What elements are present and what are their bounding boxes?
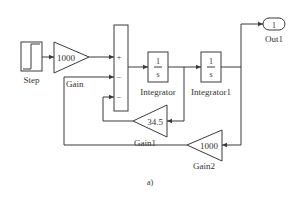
figure-caption: a) <box>147 178 154 187</box>
gain2-label: Gain2 <box>193 161 215 171</box>
integrator-label: Integrator <box>140 87 175 97</box>
signal-line <box>241 24 263 67</box>
gain-value: 1000 <box>57 53 76 63</box>
step-label: Step <box>23 75 40 85</box>
gain2-block[interactable]: 1000 Gain2 <box>187 130 222 171</box>
integrator1-denominator: s <box>209 70 212 79</box>
gain-block[interactable]: 1000 Gain <box>54 42 89 89</box>
block-diagram: Step 1000 Gain + − − 1 s Integrator 1 s … <box>0 0 303 204</box>
out1-port[interactable]: 1 Out1 <box>263 18 285 44</box>
gain-label: Gain <box>66 79 84 89</box>
gain1-block[interactable]: 34.5 Gain1 <box>133 105 167 148</box>
out1-port-number: 1 <box>272 21 276 30</box>
sum-sign-minus: − <box>117 93 122 102</box>
integrator-denominator: s <box>156 70 159 79</box>
sum-sign-minus: − <box>117 73 122 82</box>
sum-block[interactable]: + − − <box>114 25 128 111</box>
gain1-value: 34.5 <box>147 117 163 127</box>
integrator-block[interactable]: 1 s Integrator <box>140 52 175 97</box>
feedback-line <box>222 67 241 145</box>
sum-sign-plus: + <box>117 53 122 62</box>
integrator1-block[interactable]: 1 s Integrator1 <box>191 52 231 97</box>
integrator-numerator: 1 <box>156 57 160 66</box>
gain2-value: 1000 <box>200 141 219 151</box>
gain1-label: Gain1 <box>134 138 156 148</box>
integrator1-label: Integrator1 <box>191 87 231 97</box>
out1-label: Out1 <box>265 34 283 44</box>
step-block[interactable]: Step <box>21 42 42 85</box>
integrator1-numerator: 1 <box>209 57 213 66</box>
